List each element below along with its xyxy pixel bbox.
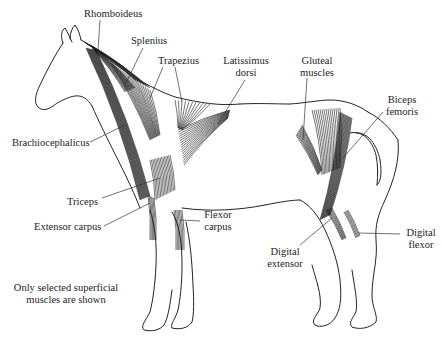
label-line: Only selected superficial	[14, 282, 118, 293]
label-triceps: Triceps	[67, 196, 98, 207]
label-line: Triceps	[67, 196, 98, 207]
label-line: Splenius	[131, 35, 167, 46]
label-flexor-carpus: Flexorcarpus	[204, 209, 232, 232]
muscle-gluteal	[296, 125, 322, 175]
leader-rhomboideus	[98, 20, 100, 50]
label-line: Rhomboideus	[84, 8, 142, 19]
label-line: muscles are shown	[26, 294, 106, 305]
label-line: flexor	[408, 239, 434, 250]
label-line: Extensor carpus	[34, 221, 101, 232]
footnote: Only selected superficialmuscles are sho…	[14, 282, 118, 305]
label-extensor-carpus: Extensor carpus	[34, 221, 101, 232]
label-line: Gluteal	[302, 55, 333, 66]
leader-trapezius-1	[150, 67, 163, 98]
label-line: extensor	[267, 258, 303, 269]
label-line: dorsi	[236, 67, 257, 78]
labels: Rhomboideus Splenius Trapezius Latissimu…	[12, 8, 436, 269]
muscle-trapezius-thoracic	[175, 100, 210, 130]
leader-flexor-carpus	[180, 220, 200, 221]
label-line: Digital	[406, 227, 435, 238]
label-line: Biceps	[388, 94, 417, 105]
label-line: muscles	[300, 67, 334, 78]
muscle-digital-extensor	[326, 208, 346, 240]
muscle-triceps	[150, 155, 175, 200]
label-brachiocephalicus: Brachiocephalicus	[12, 137, 90, 148]
label-rhomboideus: Rhomboideus	[84, 8, 142, 19]
label-digital-extensor: Digitalextensor	[267, 246, 303, 269]
label-digital-flexor: Digitalflexor	[406, 227, 435, 250]
leader-digital-extensor	[300, 218, 332, 245]
label-trapezius: Trapezius	[158, 55, 199, 66]
label-line: femoris	[386, 106, 418, 117]
horse-muscle-diagram: Rhomboideus Splenius Trapezius Latissimu…	[0, 0, 442, 345]
label-latissimus-dorsi: Latissimusdorsi	[223, 55, 269, 78]
leader-latissimus-dorsi	[218, 80, 245, 124]
label-gluteal-muscles: Glutealmuscles	[300, 55, 334, 78]
label-line: Flexor	[204, 209, 232, 220]
label-biceps-femoris: Bicepsfemoris	[386, 94, 418, 117]
leader-extensor-carpus	[104, 203, 150, 226]
label-line: carpus	[204, 221, 231, 232]
muscle-digital-flexor	[344, 210, 360, 238]
label-line: Trapezius	[158, 55, 199, 66]
label-line: Latissimus	[223, 55, 269, 66]
leader-digital-flexor	[358, 233, 400, 234]
leader-triceps	[102, 178, 160, 198]
label-line: Brachiocephalicus	[12, 137, 90, 148]
label-line: Digital	[270, 246, 299, 257]
label-splenius: Splenius	[131, 35, 167, 46]
